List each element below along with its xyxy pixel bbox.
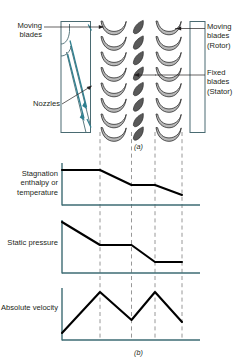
axis-label-stagnation: Stagnation enthalpy or temperature [0, 169, 58, 197]
rotor-row-2 [156, 21, 181, 141]
caption-a: (a) [134, 142, 143, 151]
nozzle-casing [61, 22, 92, 133]
chart-stagnation-enthalpy [62, 163, 200, 206]
axis-label-static-pressure: Static pressure [0, 238, 58, 247]
label-fixed-blades-stator: Fixed blades (Stator) [207, 68, 251, 96]
turbine-stage-figure: Moving blades Nozzles Moving blades (Rot… [0, 0, 251, 363]
stagnation-curve [62, 170, 182, 195]
absolute-velocity-curve [62, 292, 182, 333]
rotor-row-1 [101, 21, 126, 141]
caption-b: (b) [134, 348, 143, 357]
label-moving-blades-rotor: Moving blades (Rotor) [207, 22, 251, 50]
chart-absolute-velocity [62, 288, 200, 341]
stator-row-1 [133, 20, 143, 140]
axis-label-absolute-velocity: Absolute velocity [0, 303, 58, 312]
label-moving-blades-left: Moving blades [4, 21, 42, 40]
schematic-panel [44, 20, 205, 141]
chart-static-pressure [62, 220, 200, 274]
label-nozzles: Nozzles [2, 99, 60, 108]
outer-casing [190, 22, 205, 133]
static-pressure-curve [62, 222, 182, 262]
